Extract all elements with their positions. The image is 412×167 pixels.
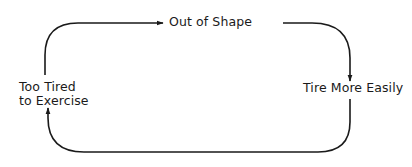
node-tire-more-easily: Tire More Easily	[303, 81, 397, 95]
node-out-of-shape: Out of Shape	[169, 15, 252, 29]
node-too-tired-line2: to Exercise	[19, 94, 75, 108]
arrow-too-tired-to-out-of-shape	[45, 23, 163, 75]
arrow-tire-more-easily-to-too-tired	[48, 99, 350, 152]
arrow-out-of-shape-to-tire-more-easily	[283, 23, 350, 81]
node-too-tired-to-exercise: Too Tired to Exercise	[19, 80, 75, 108]
node-too-tired-line1: Too Tired	[19, 80, 75, 94]
